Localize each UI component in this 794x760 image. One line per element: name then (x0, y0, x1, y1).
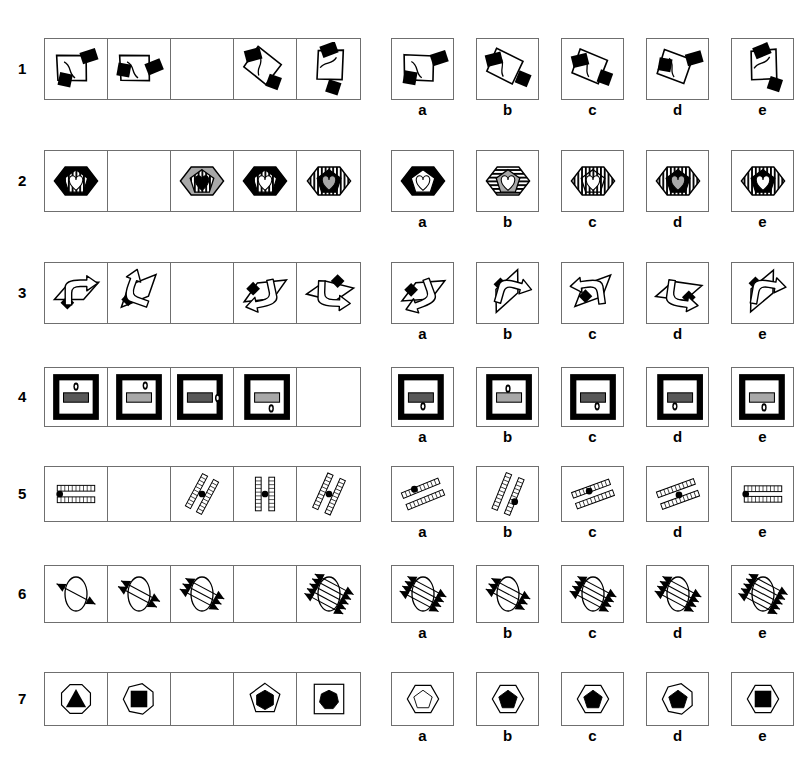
answer-option-c[interactable]: c (561, 262, 624, 341)
answer-option-box[interactable] (391, 262, 454, 324)
answer-option-box[interactable] (646, 672, 709, 726)
answer-option-c[interactable]: c (561, 38, 624, 117)
question-cell (297, 263, 360, 323)
answer-option-e[interactable]: e (731, 38, 794, 117)
answer-option-box[interactable] (561, 672, 624, 726)
answer-option-box[interactable] (391, 367, 454, 427)
answer-option-box[interactable] (561, 150, 624, 212)
answer-option-label: b (476, 524, 539, 539)
answer-option-d[interactable]: d (646, 150, 709, 229)
answer-option-b[interactable]: b (476, 150, 539, 229)
answer-option-b[interactable]: b (476, 672, 539, 743)
answer-option-box[interactable] (731, 565, 794, 623)
answer-option-e[interactable]: e (731, 262, 794, 341)
answer-option-box[interactable] (731, 672, 794, 726)
answer-option-label: c (561, 326, 624, 341)
answer-option-box[interactable] (646, 150, 709, 212)
answer-option-box[interactable] (561, 367, 624, 427)
answer-option-label: e (731, 214, 794, 229)
answer-option-e[interactable]: e (731, 466, 794, 539)
figure-hex-grey-pent-striped-black-heart (175, 154, 229, 208)
answer-option-d[interactable]: d (646, 38, 709, 117)
figure-opt-frame-e (737, 371, 789, 423)
figure-ellipse-arrows-3 (177, 569, 227, 619)
question-blank-cell[interactable] (234, 566, 297, 622)
answer-option-b[interactable]: b (476, 262, 539, 341)
answer-option-box[interactable] (731, 150, 794, 212)
answer-option-c[interactable]: c (561, 466, 624, 539)
answer-option-box[interactable] (646, 466, 709, 522)
answer-option-c[interactable]: c (561, 672, 624, 743)
answer-option-box[interactable] (476, 150, 539, 212)
answer-option-b[interactable]: b (476, 565, 539, 640)
figure-opt-hex-d (651, 154, 705, 208)
answer-option-box[interactable] (731, 466, 794, 522)
answer-option-e[interactable]: e (731, 672, 794, 743)
answer-option-box[interactable] (391, 150, 454, 212)
question-blank-cell[interactable] (108, 467, 171, 521)
answer-option-box[interactable] (561, 262, 624, 324)
answer-option-box[interactable] (646, 367, 709, 427)
answer-option-box[interactable] (391, 672, 454, 726)
figure-opt-ladder-b (484, 470, 532, 518)
answer-option-box[interactable] (561, 466, 624, 522)
figure-opt-quad-a (396, 42, 450, 96)
answer-option-b[interactable]: b (476, 367, 539, 444)
question-blank-cell[interactable] (297, 368, 360, 426)
answer-option-label: a (391, 429, 454, 444)
answer-option-b[interactable]: b (476, 466, 539, 539)
figure-frame-dark-bar-top-dot (50, 371, 102, 423)
question-row-5: 5 (0, 466, 751, 544)
question-blank-cell[interactable] (171, 39, 234, 99)
answer-option-d[interactable]: d (646, 262, 709, 341)
answer-option-box[interactable] (476, 38, 539, 100)
answer-option-e[interactable]: e (731, 565, 794, 640)
answer-option-box[interactable] (731, 367, 794, 427)
answer-option-e[interactable]: e (731, 367, 794, 444)
answer-option-a[interactable]: a (391, 150, 454, 229)
row-number: 5 (18, 486, 26, 501)
answer-option-box[interactable] (561, 38, 624, 100)
answer-option-d[interactable]: d (646, 466, 709, 539)
answer-option-d[interactable]: d (646, 672, 709, 743)
answer-option-box[interactable] (646, 38, 709, 100)
question-cell (108, 673, 171, 725)
answer-option-a[interactable]: a (391, 262, 454, 341)
answer-option-box[interactable] (731, 38, 794, 100)
answer-option-d[interactable]: d (646, 367, 709, 444)
figure-pentagon-black-hexagon (242, 676, 288, 722)
answer-option-box[interactable] (476, 466, 539, 522)
figure-ladders-horizontal-dot-left (52, 470, 100, 518)
answer-options: a b c (391, 367, 794, 444)
answer-option-b[interactable]: b (476, 38, 539, 117)
answer-option-a[interactable]: a (391, 367, 454, 444)
question-blank-cell[interactable] (171, 673, 234, 725)
answer-option-c[interactable]: c (561, 150, 624, 229)
figure-opt-ladder-c (569, 470, 617, 518)
answer-option-e[interactable]: e (731, 150, 794, 229)
answer-option-a[interactable]: a (391, 672, 454, 743)
answer-option-box[interactable] (731, 262, 794, 324)
answer-option-box[interactable] (561, 565, 624, 623)
answer-option-c[interactable]: c (561, 565, 624, 640)
answer-option-c[interactable]: c (561, 367, 624, 444)
answer-option-box[interactable] (476, 262, 539, 324)
answer-option-label: a (391, 524, 454, 539)
answer-option-box[interactable] (391, 565, 454, 623)
answer-option-a[interactable]: a (391, 38, 454, 117)
answer-option-d[interactable]: d (646, 565, 709, 640)
figure-opt-ladder-a (399, 470, 447, 518)
answer-option-a[interactable]: a (391, 565, 454, 640)
figure-opt-frame-b (482, 371, 534, 423)
answer-option-box[interactable] (391, 38, 454, 100)
answer-option-a[interactable]: a (391, 466, 454, 539)
answer-option-box[interactable] (646, 565, 709, 623)
question-blank-cell[interactable] (108, 151, 171, 211)
question-blank-cell[interactable] (171, 263, 234, 323)
answer-option-box[interactable] (391, 466, 454, 522)
figure-opt-quad-b (481, 42, 535, 96)
answer-option-box[interactable] (646, 262, 709, 324)
answer-option-box[interactable] (476, 565, 539, 623)
answer-option-box[interactable] (476, 367, 539, 427)
answer-option-box[interactable] (476, 672, 539, 726)
